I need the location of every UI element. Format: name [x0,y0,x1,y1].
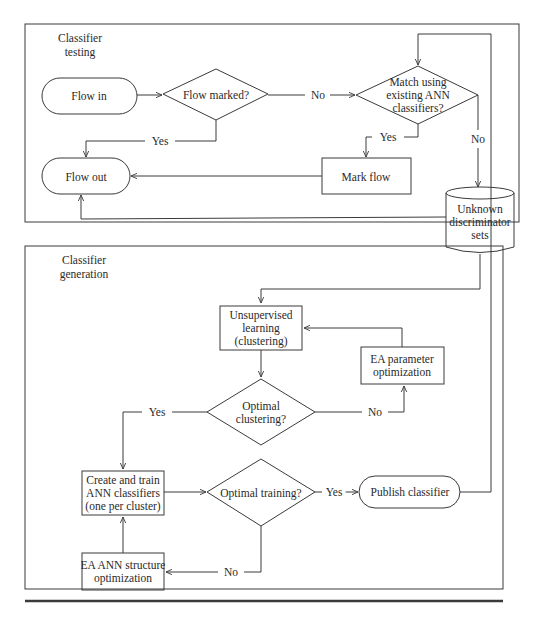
clustering-yes-label: Yes [146,406,169,419]
unsupervised-label: Unsupervised learning (clustering) [229,309,292,348]
flow-marked-yes-label: Yes [149,135,172,148]
title-line: Classifier [60,254,109,268]
label-line: optimization [81,572,166,585]
label-line: Optimal [236,400,286,413]
label-line: discriminator [449,216,510,229]
match-label: Match using existing ANN classifiers? [386,76,450,115]
label-line: Unsupervised [229,309,292,322]
publish-label: Publish classifier [371,486,450,499]
training-no-label: No [221,566,241,579]
label-line: Match using [386,76,450,89]
generation-section-title: Classifier generation [60,254,109,281]
title-line: Classifier [58,32,102,46]
match-no-label: No [468,133,488,146]
testing-section-title: Classifier testing [58,32,102,59]
match-yes-label: Yes [377,131,400,144]
label-line: ANN classifiers [85,487,160,500]
title-line: generation [60,268,109,282]
label-line: sets [449,229,510,242]
label-line: EA ANN structure [81,559,166,572]
label-line: Unknown [449,203,510,216]
label-line: Create and train [85,474,160,487]
optimal-training-label: Optimal training? [220,487,301,500]
label-line: existing ANN [386,89,450,102]
label-line: clustering? [236,413,286,426]
mark-flow-label: Mark flow [342,171,391,184]
label-line: learning [229,322,292,335]
ea-structure-label: EA ANN structure optimization [81,559,166,585]
title-line: testing [58,46,102,60]
flow-marked-label: Flow marked? [183,89,249,102]
label-line: (clustering) [229,335,292,348]
create-train-label: Create and train ANN classifiers (one pe… [85,474,160,513]
training-yes-label: Yes [323,486,346,499]
label-line: optimization [370,366,434,379]
label-line: (one per cluster) [85,500,160,513]
flow-in-label: Flow in [71,90,106,103]
clustering-no-label: No [365,406,385,419]
optimal-clustering-label: Optimal clustering? [236,400,286,426]
flow-marked-no-label: No [308,89,328,102]
ea-param-label: EA parameter optimization [370,353,434,379]
unknown-sets-label: Unknown discriminator sets [449,203,510,242]
label-line: EA parameter [370,353,434,366]
flow-out-label: Flow out [65,171,106,184]
label-line: classifiers? [386,102,450,115]
